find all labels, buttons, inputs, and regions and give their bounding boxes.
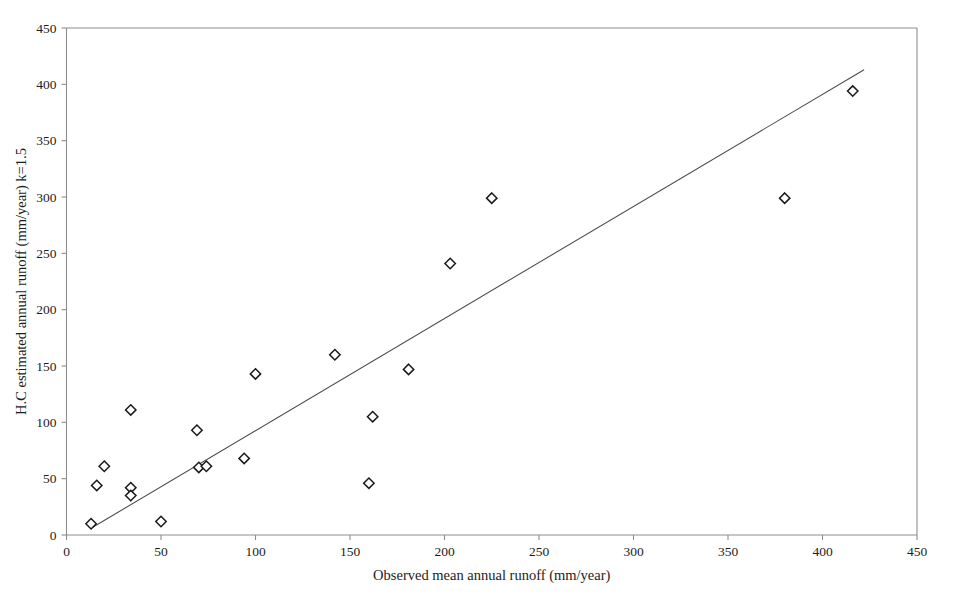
y-tick-label: 400	[36, 77, 57, 92]
x-tick-label: 50	[154, 544, 168, 559]
data-point-marker	[99, 461, 109, 471]
data-point-marker	[367, 412, 377, 422]
data-point-marker	[239, 453, 249, 463]
data-point-marker	[487, 193, 497, 203]
y-tick-label: 350	[36, 133, 57, 148]
x-axis-title: Observed mean annual runoff (mm/year)	[373, 567, 610, 584]
scatter-chart: 0501001502002503003504004500501001502002…	[0, 0, 959, 604]
data-point-marker	[848, 86, 858, 96]
data-point-marker	[92, 480, 102, 490]
x-tick-label: 350	[718, 544, 739, 559]
data-point-marker	[126, 405, 136, 415]
data-point-marker	[250, 369, 260, 379]
x-tick-label: 450	[907, 544, 928, 559]
plot-area: 0501001502002503003504004500501001502002…	[0, 0, 959, 604]
x-tick-label: 150	[340, 544, 361, 559]
data-point-marker	[192, 425, 202, 435]
data-point-marker	[780, 193, 790, 203]
data-point-marker	[86, 519, 96, 529]
data-point-marker	[126, 490, 136, 500]
x-tick-label: 200	[434, 544, 455, 559]
data-point-marker	[445, 258, 455, 268]
y-tick-label: 0	[50, 528, 57, 543]
data-point-marker	[156, 516, 166, 526]
x-tick-label: 0	[63, 544, 70, 559]
y-tick-label: 250	[36, 246, 57, 261]
y-tick-label: 450	[36, 21, 57, 36]
y-tick-label: 100	[36, 415, 57, 430]
x-tick-label: 400	[812, 544, 833, 559]
x-tick-label: 250	[529, 544, 550, 559]
y-tick-label: 200	[36, 302, 57, 317]
x-tick-label: 300	[623, 544, 644, 559]
data-point-marker	[364, 478, 374, 488]
y-axis-title: H.C estimated annual runoff (mm/year) k=…	[13, 148, 30, 415]
y-tick-label: 300	[36, 190, 57, 205]
data-point-marker	[330, 350, 340, 360]
trend-line	[91, 70, 864, 529]
data-point-marker	[201, 461, 211, 471]
y-tick-label: 150	[36, 359, 57, 374]
x-tick-label: 100	[245, 544, 266, 559]
data-point-marker	[403, 364, 413, 374]
y-tick-label: 50	[43, 471, 57, 486]
